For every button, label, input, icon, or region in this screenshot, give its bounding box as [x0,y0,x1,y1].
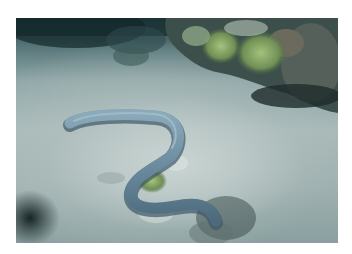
scene-illustration [16,18,338,243]
eel [70,113,216,223]
seabed-debris [97,155,256,243]
underwater-photo [16,18,338,243]
rock-shadow [16,190,60,243]
